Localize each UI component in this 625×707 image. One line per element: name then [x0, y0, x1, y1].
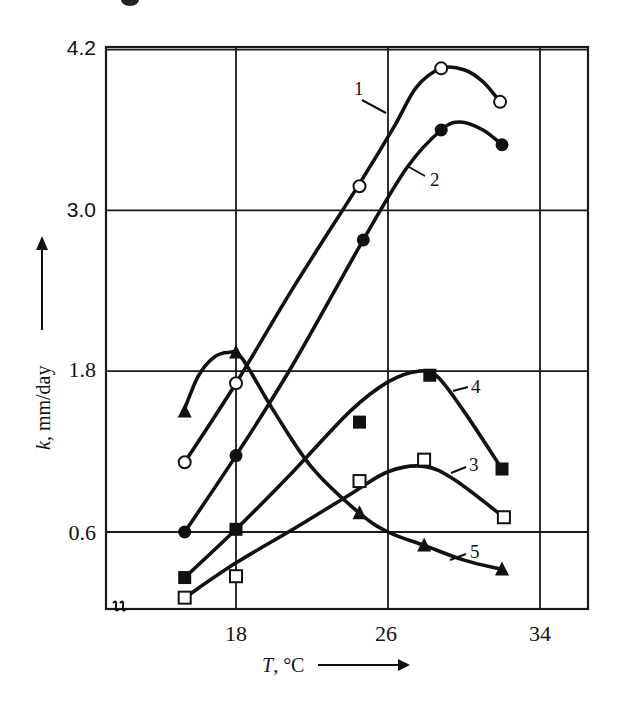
y-axis-title: k, mm/day [32, 236, 55, 450]
series-curve [185, 67, 500, 462]
y-arrow-head-icon [36, 236, 48, 250]
filled-square-marker-icon [353, 416, 366, 429]
filled-circle-marker-icon [230, 449, 243, 462]
open-square-marker-icon [230, 570, 242, 582]
x-tick-label: 26 [375, 621, 397, 646]
y-tick-label: 4.2 [67, 36, 96, 59]
label-leader-line [409, 167, 425, 176]
series-label: 3 [469, 454, 479, 475]
series-5: 5 [178, 344, 509, 575]
open-circle-marker-icon [494, 96, 506, 108]
filled-square-marker-icon [496, 463, 509, 476]
series-curve [185, 371, 502, 578]
x-arrow-head-icon [398, 659, 410, 671]
y-tick-label: 1.8 [69, 357, 97, 382]
filled-triangle-marker-icon [178, 403, 192, 417]
open-circle-marker-icon [354, 180, 366, 192]
series-2: 2 [178, 122, 508, 539]
y-title-unit: , mm/day [32, 366, 55, 442]
filled-square-marker-icon [178, 571, 191, 584]
x-tick-label: 34 [529, 621, 551, 646]
filled-circle-marker-icon [178, 526, 191, 539]
open-square-marker-icon [418, 454, 430, 466]
gridlines [106, 47, 588, 609]
x-axis-ticks: 18 26 34 [225, 621, 551, 646]
open-circle-marker-icon [179, 456, 191, 468]
open-circle-marker-icon [435, 62, 447, 74]
open-square-marker-icon [354, 475, 366, 487]
series-label: 2 [430, 169, 440, 190]
series-curve [185, 122, 502, 532]
svg-text:T, °C: T, °C [262, 654, 304, 676]
series-label: 1 [354, 78, 364, 99]
chart: 4.2 3.0 1.8 0.6 18 26 34 T, °C k, mm/day… [0, 0, 625, 707]
y-axis-ticks: 4.2 3.0 1.8 0.6 [67, 36, 96, 545]
label-leader-line [453, 387, 468, 391]
x-title-unit: , °C [273, 654, 304, 676]
filled-circle-marker-icon [496, 138, 509, 151]
series-3: 3 [179, 454, 510, 604]
filled-square-marker-icon [423, 369, 436, 382]
y-tick-label: 3.0 [67, 198, 96, 221]
open-square-marker-icon [179, 592, 191, 604]
filled-circle-marker-icon [435, 124, 448, 137]
cropped-glyph [121, 0, 139, 6]
open-square-marker-icon [498, 511, 510, 523]
series-label: 4 [471, 376, 481, 397]
open-circle-marker-icon [230, 377, 242, 389]
filled-circle-marker-icon [357, 233, 370, 246]
svg-text:k, mm/day: k, mm/day [32, 366, 55, 450]
y-tick-label: 0.6 [69, 520, 97, 545]
series-layer: 12345 [178, 62, 510, 603]
filled-square-marker-icon [230, 523, 243, 536]
label-leader-line [451, 467, 466, 473]
label-leader-line [362, 100, 386, 113]
series-4: 4 [178, 369, 508, 584]
plot-frame [106, 47, 588, 609]
x-tick-label: 18 [225, 621, 247, 646]
series-label: 5 [470, 541, 480, 562]
x-axis-title: T, °C [262, 654, 410, 676]
